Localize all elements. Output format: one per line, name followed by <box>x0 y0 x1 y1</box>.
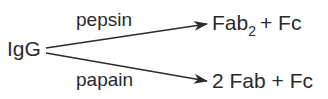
product-pepsin: Fab2+ Fc <box>212 12 301 33</box>
product-papain: 2 Fab + Fc <box>212 70 313 91</box>
enzyme-label-papain: papain <box>76 70 133 89</box>
product-subscript: 2 <box>248 23 256 39</box>
product-fc: + Fc <box>260 11 301 34</box>
source-label-igg: IgG <box>7 38 41 59</box>
product-fab: Fab <box>212 11 248 34</box>
enzyme-label-pepsin: pepsin <box>76 10 132 29</box>
